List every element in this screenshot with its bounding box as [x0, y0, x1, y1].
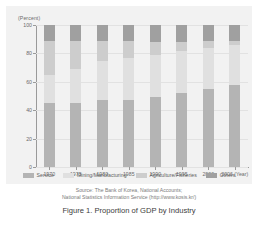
- legend-item[interactable]: Others: [206, 172, 236, 178]
- x-axis-tick: [208, 167, 209, 170]
- bar-segment[interactable]: [123, 25, 134, 41]
- legend-swatch: [206, 173, 217, 178]
- source-note: Source: The Bank of Korea, National Acco…: [0, 187, 258, 202]
- bar-segment[interactable]: [44, 41, 55, 75]
- bar-segment[interactable]: [44, 103, 55, 167]
- bar-segment[interactable]: [176, 42, 187, 51]
- bar-segment[interactable]: [229, 45, 240, 85]
- legend-swatch: [23, 173, 34, 178]
- bar-segment[interactable]: [123, 100, 134, 167]
- x-axis-tick: [235, 167, 236, 170]
- bar-segment[interactable]: [44, 75, 55, 103]
- bar-segment[interactable]: [97, 25, 108, 41]
- bar-segment[interactable]: [229, 85, 240, 167]
- bar-segment[interactable]: [97, 41, 108, 61]
- bar-segment[interactable]: [150, 25, 161, 42]
- y-axis-tick-label: 0: [29, 164, 32, 170]
- stacked-bar[interactable]: [229, 25, 240, 167]
- stacked-bar[interactable]: [176, 25, 187, 167]
- bar-segment[interactable]: [123, 58, 134, 101]
- legend-label: Agriculture/Fisheries: [150, 172, 197, 178]
- legend-item[interactable]: Service: [23, 172, 54, 178]
- bar-segment[interactable]: [70, 103, 81, 167]
- y-axis-tick-label: 60: [26, 79, 32, 85]
- bar-segment[interactable]: [70, 69, 81, 103]
- legend-label: Others: [220, 172, 236, 178]
- bar-segment[interactable]: [97, 100, 108, 167]
- gridline: 0: [36, 167, 248, 168]
- plot-area: 020406080100 197019751980198519901995200…: [36, 25, 248, 167]
- bar-segment[interactable]: [203, 89, 214, 167]
- chart-panel: (Percent) 020406080100 19701975198019851…: [6, 6, 252, 184]
- bar-segment[interactable]: [203, 41, 214, 48]
- x-axis-tick: [76, 167, 77, 170]
- legend-item[interactable]: Agriculture/Fisheries: [136, 172, 197, 178]
- stacked-bar[interactable]: [123, 25, 134, 167]
- bar-segment[interactable]: [176, 51, 187, 94]
- chart-legend: ServiceMining/ManufacturingAgriculture/F…: [6, 172, 252, 178]
- stacked-bar[interactable]: [70, 25, 81, 167]
- stacked-bar[interactable]: [150, 25, 161, 167]
- bar-segment[interactable]: [150, 55, 161, 98]
- x-axis-tick: [102, 167, 103, 170]
- legend-label: Service: [37, 172, 54, 178]
- figure-container: (Percent) 020406080100 19701975198019851…: [0, 0, 258, 225]
- legend-label: Mining/Manufacturing: [77, 172, 127, 178]
- x-axis-tick: [182, 167, 183, 170]
- bar-segment[interactable]: [176, 25, 187, 42]
- bar-segment[interactable]: [229, 25, 240, 41]
- stacked-bar[interactable]: [44, 25, 55, 167]
- stacked-bar[interactable]: [203, 25, 214, 167]
- x-axis-tick: [155, 167, 156, 170]
- figure-caption: Figure 1. Proportion of GDP by Industry: [0, 206, 258, 215]
- bar-segment[interactable]: [203, 25, 214, 41]
- bar-segment[interactable]: [123, 41, 134, 58]
- y-axis-tick-label: 40: [26, 107, 32, 113]
- y-axis-title: (Percent): [18, 15, 40, 21]
- y-axis-tick-label: 80: [26, 50, 32, 56]
- bar-segment[interactable]: [150, 42, 161, 55]
- y-axis-tick-label: 20: [26, 136, 32, 142]
- source-line-1: Source: The Bank of Korea, National Acco…: [0, 187, 258, 194]
- bar-segment[interactable]: [70, 41, 81, 69]
- bar-segment[interactable]: [203, 48, 214, 89]
- bar-segment[interactable]: [176, 93, 187, 167]
- source-line-2: National Statistics Information Service …: [0, 194, 258, 201]
- bar-segment[interactable]: [70, 25, 81, 41]
- bar-segment[interactable]: [44, 25, 55, 41]
- bar-series-group: [36, 25, 248, 167]
- stacked-bar[interactable]: [97, 25, 108, 167]
- x-axis-tick: [49, 167, 50, 170]
- legend-item[interactable]: Mining/Manufacturing: [63, 172, 127, 178]
- y-axis-tick: [33, 167, 36, 168]
- y-axis-tick-label: 100: [23, 22, 32, 28]
- legend-swatch: [63, 173, 74, 178]
- bar-segment[interactable]: [97, 61, 108, 101]
- legend-swatch: [136, 173, 147, 178]
- bar-segment[interactable]: [150, 97, 161, 167]
- x-axis-tick: [129, 167, 130, 170]
